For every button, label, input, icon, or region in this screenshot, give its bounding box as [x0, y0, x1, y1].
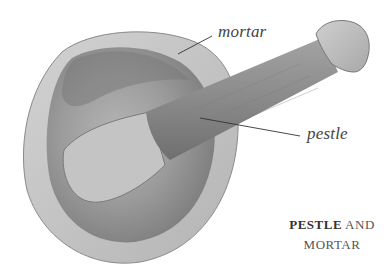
pestle-label: pestle — [307, 124, 348, 144]
caption-and: AND — [342, 217, 375, 232]
figure-caption: PESTLE AND MORTAR — [277, 215, 387, 255]
mortar-label: mortar — [218, 22, 266, 42]
caption-line-2: MORTAR — [277, 235, 387, 255]
caption-line-1: PESTLE AND — [277, 215, 387, 235]
pestle-mortar-figure: mortar pestle PESTLE AND MORTAR — [0, 0, 387, 273]
caption-bold: PESTLE — [289, 217, 342, 232]
